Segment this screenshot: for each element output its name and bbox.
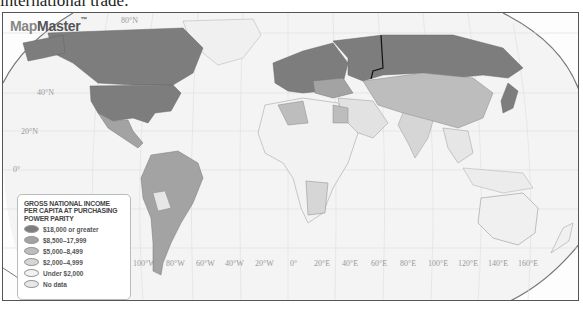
- map-legend: GROSS NATIONAL INCOME PER CAPITA AT PURC…: [17, 194, 131, 300]
- lat-label-20n: 20°N: [21, 127, 38, 136]
- legend-swatch: [24, 269, 39, 277]
- lat-label-80n: 80°N: [121, 16, 138, 25]
- egypt: [333, 105, 348, 123]
- lon-label: 120°E: [458, 259, 478, 268]
- lon-label: 20°E: [314, 259, 330, 268]
- legend-swatch: [24, 225, 39, 233]
- lon-label: 60°E: [371, 259, 387, 268]
- mapmaster-logo: MapMaster™: [10, 18, 87, 34]
- lon-label: 140°E: [488, 259, 508, 268]
- lon-label: 160°E: [518, 259, 538, 268]
- lat-label-0: 0°: [13, 165, 20, 174]
- lon-label: 0°: [290, 259, 297, 268]
- legend-item: Under $2,000: [24, 269, 124, 277]
- lon-label: 100°E: [428, 259, 448, 268]
- lon-label: 100°W: [133, 259, 156, 268]
- map-frame: MapMaster™ 80°N 40°N 20°N 0° 100°W 80°W …: [2, 12, 579, 301]
- legend-swatch: [24, 280, 39, 288]
- page-caption: international trade.: [0, 0, 128, 11]
- legend-item: $2,000–4,999: [24, 258, 124, 266]
- legend-item: $18,000 or greater: [24, 225, 124, 233]
- lon-label: 60°W: [196, 259, 215, 268]
- legend-title: GROSS NATIONAL INCOME PER CAPITA AT PURC…: [24, 200, 124, 222]
- lon-label: 80°W: [166, 259, 185, 268]
- lat-label-40n: 40°N: [37, 88, 54, 97]
- legend-item: No data: [24, 280, 124, 288]
- lon-label: 40°W: [225, 259, 244, 268]
- legend-swatch: [24, 258, 39, 266]
- legend-swatch: [24, 236, 39, 244]
- legend-item: $8,500–17,999: [24, 236, 124, 244]
- lon-label: 80°E: [400, 259, 416, 268]
- southern-africa: [306, 181, 328, 215]
- legend-item: $5,000–8,499: [24, 247, 124, 255]
- legend-swatch: [24, 247, 39, 255]
- lon-label: 20°W: [255, 259, 274, 268]
- lon-label: 40°E: [342, 259, 358, 268]
